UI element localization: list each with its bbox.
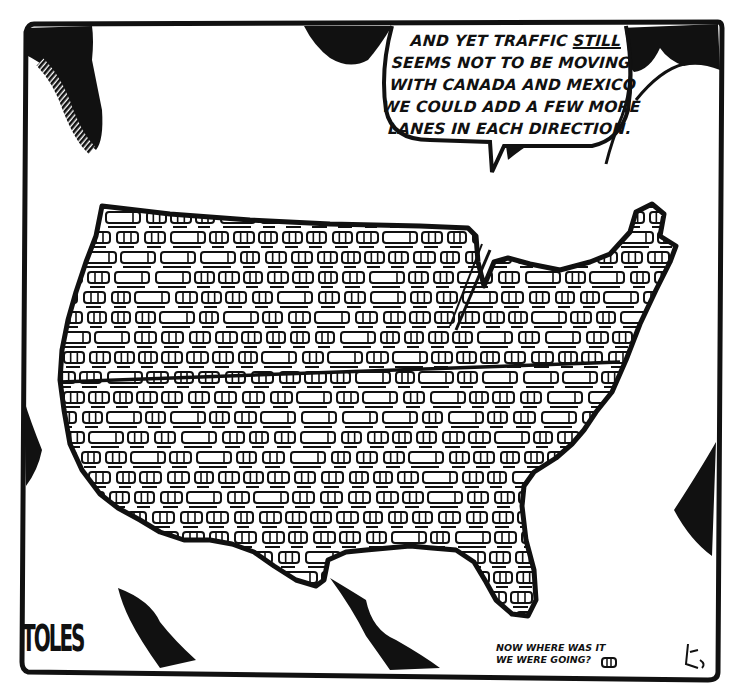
caption-text: NOW WHERE WAS IT WE WERE GOING?: [496, 642, 636, 666]
bubble-line: WITH CANADA AND MEXICO: [381, 74, 645, 96]
bubble-line: LANES IN EACH DIRECTION.: [378, 118, 642, 140]
bubble-line: SEEMS NOT TO BE MOVING.: [383, 52, 647, 74]
cartoon-panel: AND YET TRAFFIC STILL SEEMS NOT TO BE MO…: [0, 0, 745, 699]
artist-signature: TOLES: [22, 592, 68, 683]
us-map: [56, 204, 699, 627]
bubble-line: WE COULD ADD A FEW MORE: [380, 96, 644, 118]
caption-line: WE WERE GOING?: [496, 654, 636, 666]
bubble-line-text: AND YET TRAFFIC: [410, 32, 574, 50]
emphasis-word: STILL: [573, 32, 623, 50]
bubble-line: AND YET TRAFFIC STILL: [384, 30, 648, 52]
speech-bubble-text: AND YET TRAFFIC STILL SEEMS NOT TO BE MO…: [378, 30, 648, 140]
artist-mark-icon: [686, 644, 704, 668]
caption-line: NOW WHERE WAS IT: [496, 642, 636, 654]
